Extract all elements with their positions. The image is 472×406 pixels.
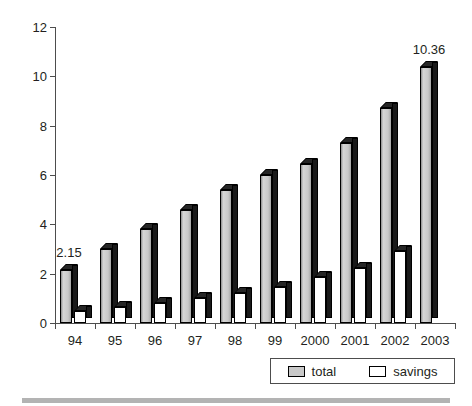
bar-total-95: [100, 249, 112, 323]
bar-side-face: [206, 293, 212, 318]
bar-value-label-2003: 10.36: [413, 42, 446, 57]
bar-total-2001: [340, 143, 352, 323]
x-axis-tick-label: 95: [108, 333, 122, 348]
x-axis-tick: [55, 323, 56, 329]
bar-front-face: [140, 229, 152, 323]
x-axis-tick-label: 98: [228, 333, 242, 348]
bar-savings-99: [274, 287, 286, 323]
bar-front-face: [74, 311, 86, 323]
bar-front-face: [220, 190, 232, 323]
x-axis-tick: [255, 323, 256, 329]
bar-front-face: [260, 175, 272, 323]
bar-savings-98: [234, 293, 246, 323]
y-axis-tick-label: 0: [40, 316, 47, 331]
legend-swatch-icon: [369, 366, 386, 377]
bar-front-face: [114, 307, 126, 323]
x-axis-tick-label: 94: [68, 333, 82, 348]
plot-area: 024681012 9495969798992000200120022003 2…: [55, 27, 455, 323]
bar-front-face: [274, 287, 286, 323]
legend-swatch-icon: [288, 366, 305, 377]
bar-savings-2002: [394, 251, 406, 323]
bar-total-2003: [420, 67, 432, 323]
x-axis-tick: [215, 323, 216, 329]
bar-front-face: [380, 108, 392, 323]
legend-label: savings: [393, 364, 437, 379]
chart-legend: totalsavings: [270, 358, 455, 384]
x-axis-tick: [135, 323, 136, 329]
x-axis-tick: [335, 323, 336, 329]
x-axis-tick: [295, 323, 296, 329]
x-axis-tick: [175, 323, 176, 329]
bar-front-face: [354, 268, 366, 324]
bar-front-face: [194, 298, 206, 323]
y-axis-tick: [50, 274, 55, 275]
bar-side-face: [86, 306, 92, 318]
x-axis-tick-label: 2001: [341, 333, 370, 348]
x-axis-tick: [95, 323, 96, 329]
bar-front-face: [60, 270, 72, 323]
y-axis-tick: [50, 175, 55, 176]
legend-label: total: [312, 364, 337, 379]
x-axis-tick: [415, 323, 416, 329]
legend-entry-savings: savings: [369, 364, 437, 379]
bar-side-face: [366, 263, 372, 319]
y-axis-tick-label: 6: [40, 168, 47, 183]
y-axis-tick-label: 8: [40, 118, 47, 133]
bar-chart-figure: 024681012 9495969798992000200120022003 2…: [0, 0, 472, 406]
bar-value-label-94: 2.15: [56, 245, 81, 260]
bar-total-97: [180, 210, 192, 323]
bar-front-face: [300, 164, 312, 323]
bar-front-face: [394, 251, 406, 323]
x-axis-tick-label: 2003: [421, 333, 450, 348]
bar-side-face: [326, 272, 332, 318]
bar-savings-2000: [314, 277, 326, 323]
bar-side-face: [246, 288, 252, 318]
y-axis-tick: [50, 27, 55, 28]
bar-savings-94: [74, 311, 86, 323]
bar-front-face: [100, 249, 112, 323]
bar-front-face: [340, 143, 352, 323]
bar-side-face: [126, 302, 132, 318]
x-axis-tick: [375, 323, 376, 329]
y-axis-tick-label: 10: [33, 69, 47, 84]
bar-front-face: [314, 277, 326, 323]
bar-total-99: [260, 175, 272, 323]
bar-savings-95: [114, 307, 126, 323]
y-axis-tick: [50, 126, 55, 127]
x-axis-tick-label: 97: [188, 333, 202, 348]
y-axis-tick: [50, 224, 55, 225]
bar-savings-2001: [354, 268, 366, 324]
x-axis-tick-label: 99: [268, 333, 282, 348]
bar-front-face: [420, 67, 432, 323]
bar-side-face: [166, 298, 172, 318]
x-axis-tick: [455, 323, 456, 329]
x-axis-tick-label: 96: [148, 333, 162, 348]
bar-savings-96: [154, 303, 166, 323]
bar-total-2000: [300, 164, 312, 323]
x-axis-tick-label: 2000: [301, 333, 330, 348]
bar-total-98: [220, 190, 232, 323]
bar-side-face: [406, 246, 412, 318]
bar-side-face: [286, 282, 292, 318]
y-axis-tick-label: 2: [40, 266, 47, 281]
y-axis-tick: [50, 76, 55, 77]
bar-total-2002: [380, 108, 392, 323]
y-axis-tick-label: 12: [33, 20, 47, 35]
x-axis-tick-label: 2002: [381, 333, 410, 348]
bar-front-face: [154, 303, 166, 323]
bar-front-face: [234, 293, 246, 323]
bar-front-face: [180, 210, 192, 323]
y-axis-tick-label: 4: [40, 217, 47, 232]
bar-total-96: [140, 229, 152, 323]
legend-entry-total: total: [288, 364, 337, 379]
bar-total-94: [60, 270, 72, 323]
bottom-divider-rule: [22, 398, 450, 403]
y-axis-line: [55, 27, 56, 324]
bar-side-face: [432, 62, 438, 318]
bar-savings-97: [194, 298, 206, 323]
